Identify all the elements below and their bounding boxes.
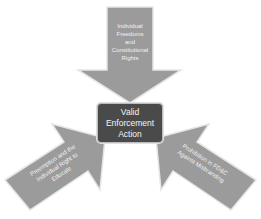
center-node-label-line: Valid [121,107,139,118]
top-arrow-label-line: Constitutional [104,46,156,54]
top-arrow-label-line: Rights [104,54,156,62]
center-node-label-line: Action [118,129,142,140]
top-arrow-label-line: Individual [104,22,156,30]
top-arrow-label: Individual Freedoms and Constitutional R… [104,22,156,62]
center-node-valid-enforcement-action: Valid Enforcement Action [97,103,163,143]
top-arrow-label-line: and [104,38,156,46]
center-node-label-line: Enforcement [106,118,154,129]
top-arrow-label-line: Freedoms [104,30,156,38]
